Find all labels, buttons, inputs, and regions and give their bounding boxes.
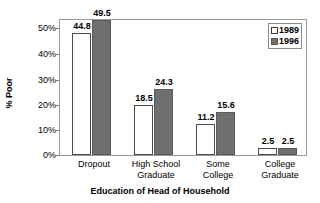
y-tick-label-20: 20% (22, 101, 56, 110)
x-tick-label-college-graduate: College Graduate (245, 159, 315, 181)
bar-dropout-1996 (92, 20, 111, 155)
bar-dropout-1989 (72, 33, 91, 155)
legend-label-1996: 1996 (279, 37, 299, 46)
bar-college-graduate-1989 (258, 148, 277, 155)
y-axis-label-text: % Poor (4, 70, 14, 116)
value-label-some-college-1996: 15.6 (212, 101, 240, 110)
value-label-high-school-graduate-1996: 24.3 (150, 78, 178, 87)
x-tick-label-high-school-graduate-line2: Graduate (121, 170, 191, 181)
chart-figure: % Poor 50% 40% 30% 20% 10% 0% 44.8 49.5 … (0, 0, 320, 203)
legend-item-1989[interactable]: 1989 (271, 25, 299, 36)
plot-area: 44.8 49.5 18.5 24.3 11.2 15.6 2. (59, 19, 307, 156)
y-tick-label-10: 10% (22, 126, 56, 135)
bar-group-high-school-graduate: 18.5 24.3 (126, 20, 188, 155)
x-tick-label-college-graduate-line1: College (265, 159, 296, 169)
y-tick-label-50: 50% (22, 24, 56, 33)
legend-label-1989: 1989 (279, 26, 299, 35)
bar-some-college-1989 (196, 124, 215, 155)
y-tick-label-40: 40% (22, 50, 56, 59)
x-axis-ticks: Dropout High School Graduate Some Colleg… (59, 159, 307, 185)
value-label-dropout-1996: 49.5 (88, 9, 116, 18)
bar-group-some-college: 11.2 15.6 (188, 20, 250, 155)
x-tick-label-some-college-line2: College (183, 170, 253, 181)
y-tick-label-0: 0% (22, 151, 56, 160)
x-tick-label-some-college: Some College (183, 159, 253, 181)
legend[interactable]: 1989 1996 (268, 23, 302, 49)
x-tick-label-high-school-graduate-line1: High School (132, 159, 181, 169)
bar-group-dropout: 44.8 49.5 (64, 20, 126, 155)
x-tick-label-some-college-line1: Some (206, 159, 230, 169)
bar-some-college-1996 (216, 112, 235, 155)
y-axis-ticks: 50% 40% 30% 20% 10% 0% (18, 0, 56, 203)
y-axis-label: % Poor (2, 62, 16, 122)
legend-swatch-1996-icon (271, 38, 278, 45)
x-tick-label-high-school-graduate: High School Graduate (121, 159, 191, 181)
legend-swatch-1989-icon (271, 27, 278, 34)
y-tick-label-30: 30% (22, 76, 56, 85)
x-axis-title: Education of Head of Household (0, 186, 320, 196)
x-tick-label-dropout: Dropout (59, 159, 129, 170)
value-label-college-graduate-1996: 2.5 (274, 137, 302, 146)
bar-high-school-graduate-1996 (154, 89, 173, 155)
x-tick-label-college-graduate-line2: Graduate (245, 170, 315, 181)
bar-college-graduate-1996 (278, 148, 297, 155)
legend-item-1996[interactable]: 1996 (271, 36, 299, 47)
bar-high-school-graduate-1989 (134, 105, 153, 155)
x-tick-label-dropout-line1: Dropout (78, 159, 110, 169)
